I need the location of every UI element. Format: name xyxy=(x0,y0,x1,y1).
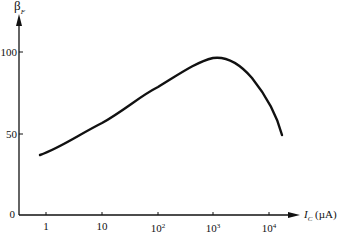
x-tick-label-100: 102 xyxy=(143,221,173,234)
y-tick-label-0: 0 xyxy=(0,209,15,220)
y-tick-label-100: 100 xyxy=(0,47,17,58)
x-tick-label-1: 1 xyxy=(31,221,61,232)
y-tick-label-50: 50 xyxy=(0,129,17,140)
beta-curve xyxy=(40,58,282,155)
x-axis-label: IC (µA) xyxy=(304,209,337,225)
x-tick-label-10: 10 xyxy=(87,221,117,232)
chart-canvas xyxy=(0,0,337,238)
x-tick-label-1000: 103 xyxy=(198,221,228,234)
x-tick-label-10000: 104 xyxy=(254,221,284,234)
y-axis-label: βF xyxy=(14,0,25,18)
x-axis-arrow-icon xyxy=(288,212,300,218)
